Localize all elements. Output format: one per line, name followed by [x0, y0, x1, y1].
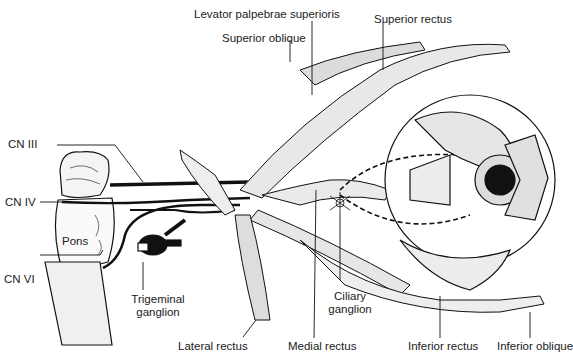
label-inferior-rectus: Inferior rectus [408, 340, 478, 353]
label-cn-iii: CN III [8, 138, 37, 151]
label-cn-vi: CN VI [4, 273, 35, 286]
trigeminal-ganglion-drawing [138, 220, 185, 255]
label-inferior-oblique: Inferior oblique [497, 340, 573, 353]
label-superior-rectus: Superior rectus [374, 13, 452, 26]
label-ciliary-ganglion: Ciliary ganglion [325, 290, 375, 316]
label-trigeminal-line1: Trigeminal [131, 293, 184, 305]
label-trigeminal-line2: ganglion [136, 306, 179, 318]
label-cn-iv: CN IV [5, 196, 36, 209]
label-ciliary-line1: Ciliary [334, 290, 366, 302]
label-medial-rectus: Medial rectus [288, 340, 356, 353]
label-trigeminal-ganglion: Trigeminal ganglion [128, 293, 188, 319]
label-lateral-rectus: Lateral rectus [178, 340, 248, 353]
label-pons: Pons [62, 235, 88, 248]
label-levator-palpebrae-superioris: Levator palpebrae superioris [194, 8, 340, 21]
brainstem-drawing [45, 152, 114, 345]
label-superior-oblique: Superior oblique [222, 32, 306, 45]
label-ciliary-line2: ganglion [328, 303, 371, 315]
